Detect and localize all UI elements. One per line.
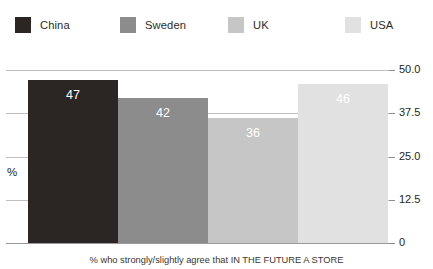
bar-value-label-sweden: 42 [118,107,208,120]
bar-chart: China Sweden UK USA 47423646 50.037.525.… [0,0,433,269]
bar-usa[interactable]: 46 [298,84,388,243]
tick-mark-0 [389,243,395,244]
bar-series: 47423646 [0,0,433,249]
y-axis-title: % [7,166,17,178]
tick-label-12.5: 12.5 [399,194,420,205]
tick-label-25.0: 25.0 [399,151,420,162]
tick-label-50.0: 50.0 [399,64,420,75]
tick-mark-37.5 [389,113,395,114]
plot-area: 47423646 50.037.525.012.50 % [0,0,433,249]
bar-uk[interactable]: 36 [208,118,298,243]
chart-caption: % who strongly/slightly agree that IN TH… [0,255,433,266]
tick-mark-50.0 [389,70,395,71]
bar-sweden[interactable]: 42 [118,98,208,243]
bar-china[interactable]: 47 [28,80,118,243]
tick-label-0: 0 [399,237,405,248]
tick-mark-12.5 [389,200,395,201]
tick-label-37.5: 37.5 [399,107,420,118]
bar-value-label-usa: 46 [298,93,388,106]
tick-mark-25.0 [389,157,395,158]
bar-value-label-uk: 36 [208,127,298,140]
bar-value-label-china: 47 [28,89,118,102]
